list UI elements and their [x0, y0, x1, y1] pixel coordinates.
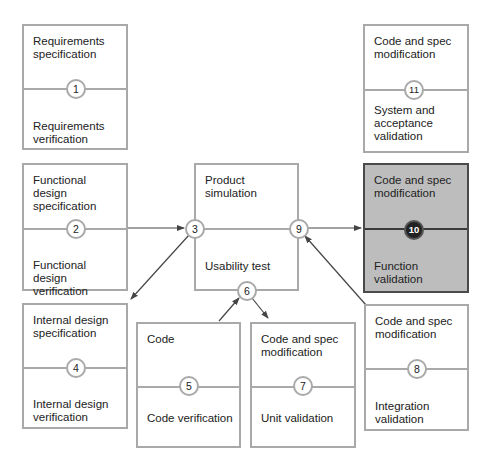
node-7: 7 [293, 376, 313, 396]
box-top-label: Internal design specification [33, 314, 122, 340]
node-2: 2 [66, 219, 86, 239]
node-3: 3 [185, 219, 205, 239]
box-product-simulation: Product simulation Usability test [194, 163, 299, 291]
box-top-label: Code [147, 333, 235, 346]
box-top-label: Code and spec modification [375, 315, 463, 341]
box-bottom-label: Internal design verification [33, 398, 122, 424]
box-top-label: Code and spec modification [261, 333, 350, 359]
arrow-3-to-4 [131, 235, 189, 299]
node-9: 9 [289, 219, 309, 239]
divider [196, 228, 297, 230]
arrow-6-to-7 [252, 298, 268, 318]
box-top-label: Code and spec modification [374, 35, 463, 61]
node-8: 8 [407, 359, 427, 379]
node-5: 5 [179, 376, 199, 396]
node-1: 1 [66, 79, 86, 99]
node-10: 10 [404, 220, 424, 240]
box-bottom-label: Requirements verification [33, 120, 122, 146]
box-bottom-label: Usability test [205, 260, 293, 273]
box-top-label: Product simulation [205, 174, 293, 200]
arrow-5-to-6 [219, 298, 239, 321]
arrow-8-to-9 [305, 236, 366, 305]
box-top-label: Functional design specification [33, 174, 122, 213]
box-bottom-label: Integration validation [375, 400, 463, 426]
node-11: 11 [404, 80, 424, 100]
box-bottom-label: Unit validation [261, 412, 350, 425]
box-bottom-label: System and acceptance validation [374, 104, 463, 143]
box-bottom-label: Functional design verification [33, 259, 122, 298]
node-4: 4 [66, 358, 86, 378]
box-top-label: Code and spec modification [374, 174, 463, 200]
box-top-label: Requirements specification [33, 35, 122, 61]
node-6: 6 [237, 281, 257, 301]
box-bottom-label: Code verification [147, 412, 235, 425]
box-bottom-label: Function validation [374, 260, 463, 286]
